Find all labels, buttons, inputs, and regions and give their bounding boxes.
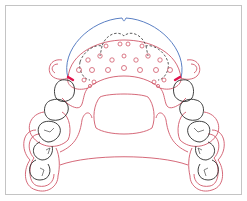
diagram-canvas: [0, 0, 247, 201]
dental-appliance-figure: [0, 0, 247, 201]
figure-frame: [6, 6, 242, 195]
